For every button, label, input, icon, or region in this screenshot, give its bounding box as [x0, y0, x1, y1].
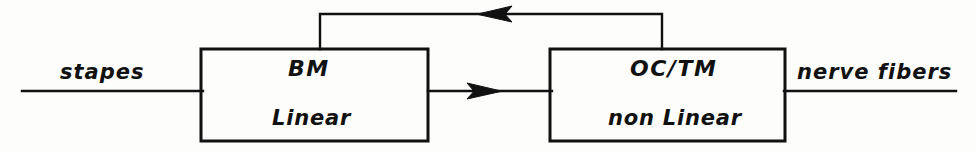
block-bm-subtitle: Linear: [272, 106, 351, 130]
input-edge-label: stapes: [60, 60, 144, 84]
block-octm-subtitle: non Linear: [608, 106, 742, 130]
output-edge-label: nerve fibers: [797, 60, 952, 84]
block-octm-title: OC/TM: [630, 56, 717, 81]
feedback-line: [320, 14, 662, 49]
block-diagram: stapes nerve fibers BM Linear OC/TM non …: [0, 0, 976, 152]
block-bm-title: BM: [288, 56, 330, 81]
